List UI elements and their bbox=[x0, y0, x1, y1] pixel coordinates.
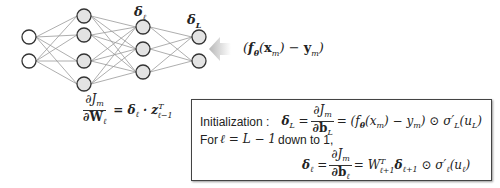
rec-fraction: ∂Jm ∂bℓ bbox=[329, 148, 352, 184]
neuron-node bbox=[136, 65, 150, 79]
m-sub: m bbox=[272, 49, 280, 58]
neuron-node bbox=[136, 42, 150, 56]
rec-lhs: δℓ = bbox=[302, 158, 327, 174]
minus-sign: − bbox=[285, 40, 304, 55]
neuron-node bbox=[22, 30, 36, 44]
neuron-node bbox=[192, 54, 206, 68]
network-edge bbox=[150, 37, 192, 49]
fraction-numerator: ∂Jm bbox=[83, 93, 106, 111]
loop-range: ℓ = L − 1 bbox=[220, 132, 276, 147]
neuron-node bbox=[77, 77, 91, 91]
fraction-denominator: ∂Wℓ bbox=[81, 111, 108, 128]
network-edge bbox=[36, 61, 77, 84]
initialization-label: Initialization : bbox=[200, 115, 269, 129]
neuron-node bbox=[77, 28, 91, 42]
network-edge bbox=[36, 37, 77, 84]
delta-l-label: δℓ bbox=[134, 4, 146, 22]
network-edge bbox=[91, 27, 136, 35]
neuron-node bbox=[77, 54, 91, 68]
rec-rhs: = WTℓ+1δℓ+1 ⊙ σ′ℓ(uℓ) bbox=[354, 157, 470, 174]
init-lhs: δL = bbox=[281, 114, 308, 130]
theta-sub: θ bbox=[254, 48, 259, 58]
delta-L-label: δL bbox=[187, 12, 201, 30]
delta-L-sub: L bbox=[196, 20, 202, 30]
paren-close: ) bbox=[319, 40, 324, 55]
delta-l-sub: ℓ bbox=[143, 12, 146, 22]
neuron-node bbox=[136, 20, 150, 34]
neuron-node bbox=[192, 30, 206, 44]
weight-gradient-rhs: = δℓ · zTℓ−1 bbox=[113, 102, 172, 119]
backprop-arrow-icon bbox=[209, 37, 231, 61]
recursion-row: δℓ = ∂Jm ∂bℓ = WTℓ+1δℓ+1 ⊙ σ′ℓ(uℓ) bbox=[302, 148, 470, 184]
network-edge bbox=[36, 16, 77, 37]
loop-row: For ℓ = L − 1 down to 1, bbox=[200, 132, 333, 147]
backprop-algorithm-box: Initialization : δL = ∂Jm ∂bL = (fθ(xm) … bbox=[191, 99, 492, 181]
loop-suffix: down to 1, bbox=[278, 133, 333, 147]
weight-gradient-fraction: ∂Jm ∂Wℓ bbox=[81, 93, 108, 129]
loop-prefix: For bbox=[200, 133, 218, 147]
network-edge bbox=[91, 72, 136, 84]
network-edge bbox=[91, 16, 136, 27]
network-edge bbox=[91, 35, 136, 49]
neuron-node bbox=[77, 9, 91, 23]
init-rhs: = (fθ(xm) − ym) ⊙ σ′L(uL) bbox=[337, 114, 482, 130]
neuron-node bbox=[22, 54, 36, 68]
x-symbol: x bbox=[264, 40, 272, 55]
network-edges bbox=[36, 16, 192, 84]
network-edge bbox=[36, 35, 77, 37]
m-sub-2: m bbox=[311, 49, 319, 58]
weight-gradient-formula: ∂Jm ∂Wℓ = δℓ · zTℓ−1 bbox=[79, 93, 173, 129]
error-input-expression: (fθ(xm) − ym) bbox=[243, 40, 324, 58]
